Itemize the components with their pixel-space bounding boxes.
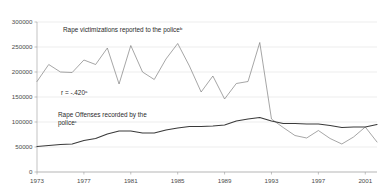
annotation-correlation: r = -.420a: [61, 89, 88, 96]
data-series-group: [37, 43, 377, 147]
x-tick-label-1993: 1993: [265, 177, 279, 184]
series-labels-group: Rape victimizations reported to the poli…: [58, 26, 183, 127]
y-tick-label-200000: 200000: [12, 68, 33, 75]
x-tick-label-2001: 2001: [358, 177, 372, 184]
y-axis: [35, 22, 38, 172]
series-line-0: [37, 43, 377, 145]
y-tick-label-250000: 250000: [12, 43, 33, 50]
annotations-group: r = -.420a: [61, 89, 88, 96]
x-tick-label-1989: 1989: [218, 177, 232, 184]
lower-series-label: Rape Offenses recorded by thepolicec: [58, 111, 147, 127]
x-tick-label-1973: 1973: [30, 177, 44, 184]
x-tick-label-1981: 1981: [124, 177, 138, 184]
x-tick-label-1997: 1997: [311, 177, 325, 184]
y-tick-label-300000: 300000: [12, 18, 33, 25]
y-tick-label-150000: 150000: [12, 93, 33, 100]
chart-figure: 050000100000150000200000250000300000 197…: [0, 0, 383, 195]
line-chart: 050000100000150000200000250000300000 197…: [0, 0, 383, 195]
y-tick-label-100000: 100000: [12, 118, 33, 125]
x-tick-label-1977: 1977: [77, 177, 91, 184]
upper-series-label: Rape victimizations reported to the poli…: [63, 26, 183, 34]
y-axis-tick-labels: 050000100000150000200000250000300000: [12, 18, 33, 175]
x-axis: [37, 172, 377, 175]
y-tick-label-0: 0: [29, 168, 33, 175]
gridlines: [37, 22, 377, 172]
x-axis-tick-labels: 19731977198119851989199319972001: [30, 177, 373, 184]
x-tick-label-1985: 1985: [171, 177, 185, 184]
y-tick-label-50000: 50000: [15, 143, 33, 150]
